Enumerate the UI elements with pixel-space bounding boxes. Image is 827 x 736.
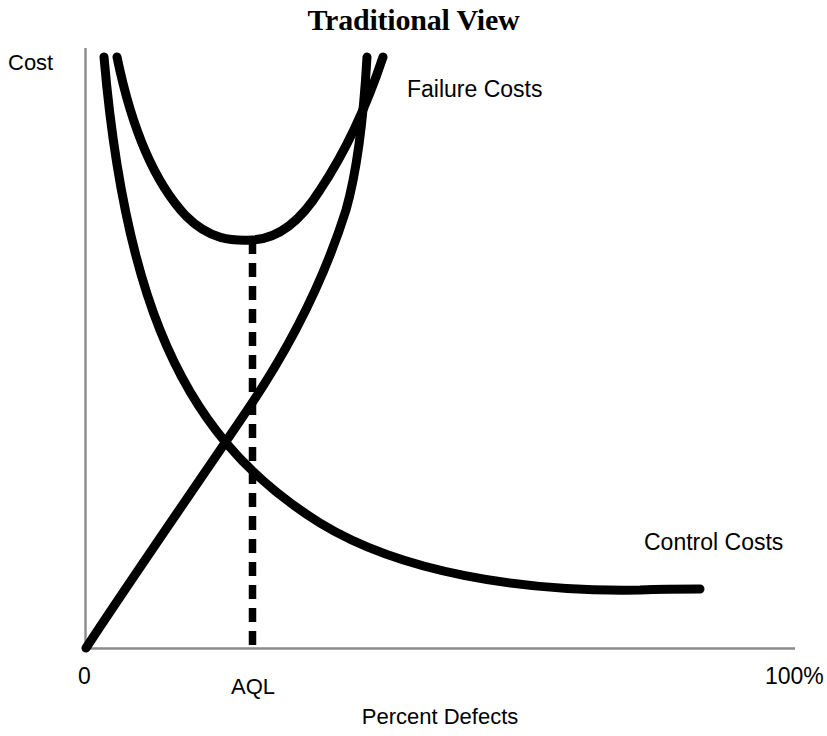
y-axis-label: Cost	[8, 52, 53, 74]
chart-title: Traditional View	[0, 5, 827, 35]
chart-canvas: Traditional View Cost Failure Costs Cont…	[0, 0, 827, 736]
control-costs-curve	[104, 57, 700, 590]
chart-plot-area	[0, 0, 827, 736]
x-axis-tick-max: 100%	[765, 665, 824, 688]
x-axis-tick-min: 0	[78, 665, 91, 688]
x-axis-label: Percent Defects	[0, 706, 827, 728]
aql-marker-label: AQL	[231, 676, 275, 698]
failure-costs-label: Failure Costs	[407, 78, 542, 101]
failure-costs-curve	[86, 57, 367, 648]
control-costs-label: Control Costs	[644, 531, 783, 554]
